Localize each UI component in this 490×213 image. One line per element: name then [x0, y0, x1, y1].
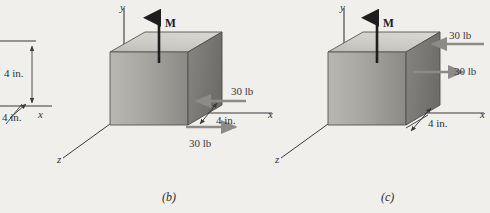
moment-label: M: [383, 18, 394, 30]
panel-caption: (b): [162, 191, 176, 203]
panel-b-graphics: [63, 8, 272, 158]
force-label-lower: 30 lb: [454, 66, 476, 77]
axis-label-x: x: [38, 109, 43, 120]
dimension-label: 4 in.: [216, 115, 236, 126]
axis-label-x: x: [480, 109, 485, 120]
force-label-upper: 30 lb: [231, 86, 253, 97]
dimension-label: 4 in.: [428, 118, 448, 129]
axis-label-x: x: [268, 109, 273, 120]
force-label-upper: 30 lb: [449, 30, 471, 41]
cube-front-face: [110, 52, 188, 125]
dimension-label-vertical: 4 in.: [4, 68, 24, 79]
dimension-label-diagonal: 4 in.: [2, 112, 22, 123]
moment-label: M: [165, 18, 176, 30]
force-label-lower: 30 lb: [189, 138, 211, 149]
diagram-canvas: [0, 0, 490, 213]
cube-front-face: [328, 52, 406, 125]
axis-label-z: z: [57, 154, 61, 165]
panel-caption: (c): [381, 191, 394, 203]
mechanics-figure: 4 in. 4 in. x y z x M 30 lb 30 lb 4 in. …: [0, 0, 490, 213]
axis-label-y: y: [340, 2, 345, 13]
axis-label-y: y: [120, 2, 125, 13]
axis-label-z: z: [275, 154, 279, 165]
